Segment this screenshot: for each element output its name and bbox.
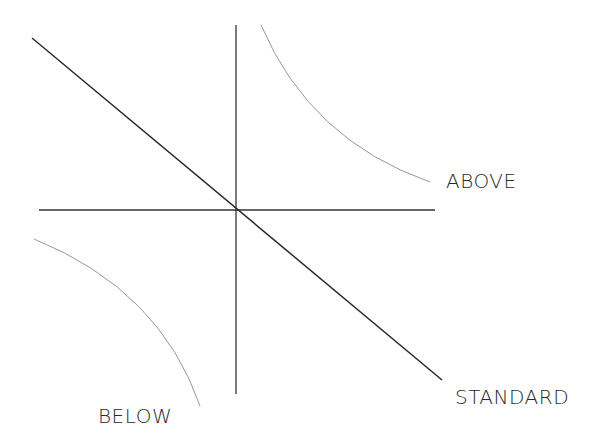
below-label: BELOW [98, 404, 172, 428]
below-curve [34, 239, 200, 406]
standard-label: STANDARD [455, 385, 569, 409]
above-curve [261, 25, 430, 182]
standard-line [32, 38, 442, 380]
quadrant-diagram: ABOVE STANDARD BELOW [0, 0, 610, 444]
above-label: ABOVE [446, 169, 517, 193]
